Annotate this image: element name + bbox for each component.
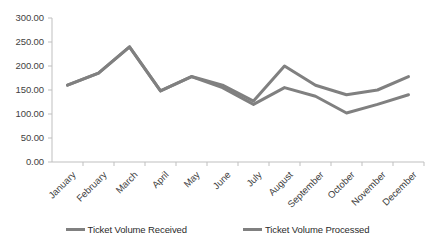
y-axis-tick-label: 300.00	[0, 12, 44, 23]
legend-label: Ticket Volume Received	[88, 224, 187, 235]
y-tick-marks	[48, 18, 52, 162]
y-axis-tick-label: 150.00	[0, 84, 44, 95]
legend-swatch-icon	[66, 228, 85, 231]
line-chart: 300.00250.00200.00150.00100.0050.000.00 …	[0, 0, 435, 249]
series-line	[68, 47, 409, 113]
y-axis-tick-label: 50.00	[0, 132, 44, 143]
legend-item-processed[interactable]: Ticket Volume Processed	[243, 224, 370, 235]
y-axis-tick-label: 0.00	[0, 156, 44, 167]
y-axis-tick-label: 100.00	[0, 108, 44, 119]
y-axis-tick-label: 250.00	[0, 36, 44, 47]
legend-item-received[interactable]: Ticket Volume Received	[66, 224, 187, 235]
chart-legend: Ticket Volume Received Ticket Volume Pro…	[0, 224, 435, 235]
x-tick-marks	[83, 162, 424, 166]
legend-swatch-icon	[243, 228, 262, 231]
legend-label: Ticket Volume Processed	[265, 224, 370, 235]
series-lines	[68, 47, 409, 113]
y-axis-tick-label: 200.00	[0, 60, 44, 71]
